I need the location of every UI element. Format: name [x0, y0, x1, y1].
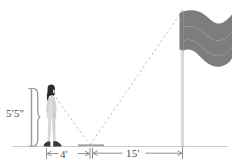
geometry-diagram: 5'5" 4' 15' — [0, 0, 237, 167]
diagram-canvas — [0, 0, 237, 167]
dimension-4ft — [47, 149, 91, 159]
flag-shape — [180, 10, 233, 67]
dashed-sight-line — [53, 11, 183, 145]
person-figure — [44, 85, 62, 147]
height-brace — [29, 89, 40, 147]
label-person-height: 5'5" — [6, 107, 24, 119]
label-distance-person-to-mirror: 4' — [60, 148, 68, 160]
label-distance-mirror-to-flagpole: 15' — [126, 147, 140, 159]
